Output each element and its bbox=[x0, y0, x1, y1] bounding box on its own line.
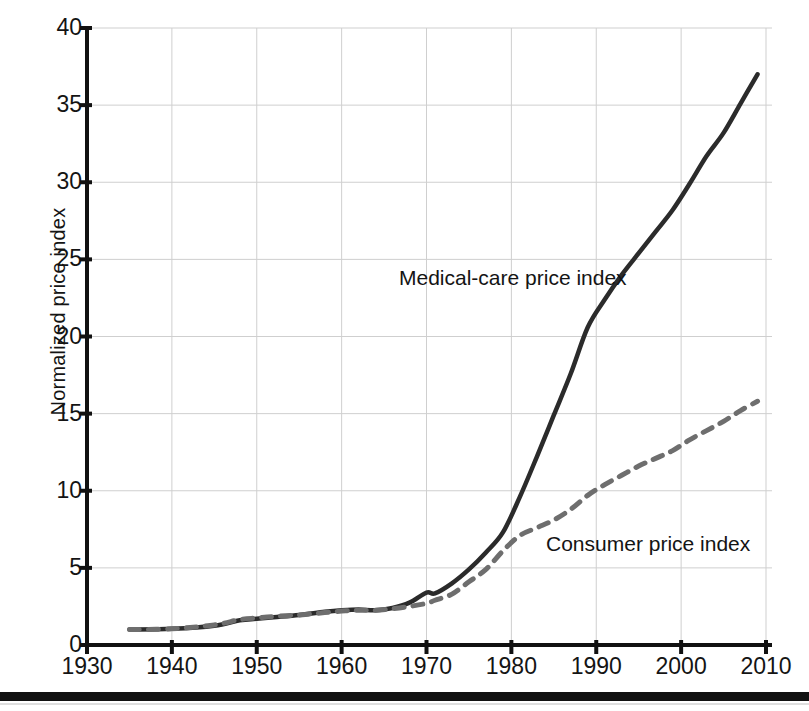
bottom-rule bbox=[0, 692, 809, 701]
annotation-consumer-price: Consumer price index bbox=[546, 532, 750, 556]
axis-ticks bbox=[80, 28, 766, 654]
annotation-medical-care: Medical-care price index bbox=[399, 266, 627, 290]
chart-plot-area bbox=[0, 0, 809, 711]
chart-page: Normalized price index 0510152025303540 … bbox=[0, 0, 809, 711]
bottom-rule-shadow bbox=[0, 703, 809, 705]
series-line-consumer-price bbox=[129, 401, 757, 629]
